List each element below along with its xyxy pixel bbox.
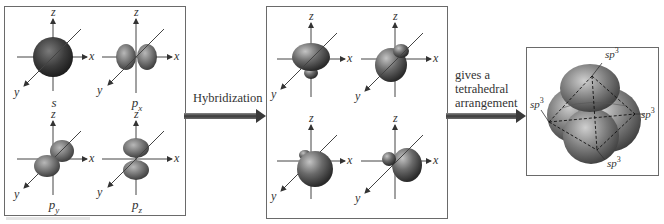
z-axis-label: z [134, 5, 139, 20]
sp3-label-bottom: sp3 [607, 155, 621, 169]
tetrahedral-panel: sp3 sp3 sp3 sp3 [526, 47, 659, 176]
hybrid-orbital-4-diagram: z x y [355, 115, 445, 215]
hybrid-orbital-1-diagram: z x y [269, 13, 359, 113]
orbital-caption-py: py [34, 197, 74, 215]
x-axis-label: x [433, 51, 438, 66]
label-line-1: gives a [455, 68, 517, 82]
z-axis-label: z [309, 111, 314, 126]
x-axis-label: x [347, 153, 352, 168]
y-axis-label: y [14, 85, 19, 100]
decorative-strip [6, 217, 90, 220]
hybrid-orbital-2-diagram: z x y [355, 13, 445, 113]
hybrid-orbital-3-diagram: z x y [269, 115, 359, 215]
px-orbital-diagram: z x y px [96, 11, 186, 111]
x-axis-label: x [347, 51, 352, 66]
y-axis-label: y [271, 87, 276, 102]
tetrahedral-arrow-head-icon [516, 109, 526, 123]
x-axis-label: x [89, 49, 94, 64]
hybrid-orbital-3-icon [269, 115, 359, 215]
x-axis-label: x [89, 151, 94, 166]
sp3-label-right: sp3 [641, 106, 655, 120]
atomic-orbitals-panel: z x y s z x y px z x y py [4, 6, 186, 216]
z-axis-label: z [309, 9, 314, 24]
orbital-caption-pz: pz [117, 197, 157, 215]
s-orbital-diagram: z x y s [9, 11, 99, 111]
hybridization-label: Hybridization [193, 91, 262, 105]
x-axis-label: x [174, 49, 179, 64]
hybridization-arrow-head-icon [256, 109, 266, 123]
label-line-2: tetrahedral [455, 82, 517, 96]
y-axis-label: y [355, 89, 360, 104]
py-orbital-diagram: z x y py [9, 113, 99, 213]
y-axis-label: y [355, 191, 360, 206]
z-axis-label: z [51, 107, 56, 122]
z-axis-label: z [393, 111, 398, 126]
hybridization-arrow-shaft [184, 113, 258, 119]
x-axis-label: x [433, 153, 438, 168]
y-axis-label: y [271, 189, 276, 204]
label-line-3: arrangement [455, 96, 517, 110]
hybrid-orbital-1-icon [269, 13, 359, 113]
z-axis-label: z [134, 107, 139, 122]
hybrid-orbital-2-icon [355, 13, 445, 113]
z-axis-label: z [51, 5, 56, 20]
tetrahedral-sp3-shape-icon [527, 48, 658, 175]
x-axis-label: x [174, 151, 179, 166]
tetrahedral-arrangement-label: gives a tetrahedral arrangement [455, 68, 517, 110]
z-axis-label: z [393, 9, 398, 24]
y-axis-label: y [97, 185, 102, 200]
pz-orbital-diagram: z x y pz [96, 113, 186, 213]
y-axis-label: y [97, 83, 102, 98]
sp3-label-top: sp3 [605, 46, 619, 60]
sp3-label-left: sp3 [530, 96, 544, 110]
hybrid-orbitals-panel: z x y z x y z x y [266, 6, 448, 219]
tetrahedral-arrow-shaft [446, 113, 518, 119]
hybrid-orbital-4-icon [355, 115, 445, 215]
y-axis-label: y [14, 187, 19, 202]
